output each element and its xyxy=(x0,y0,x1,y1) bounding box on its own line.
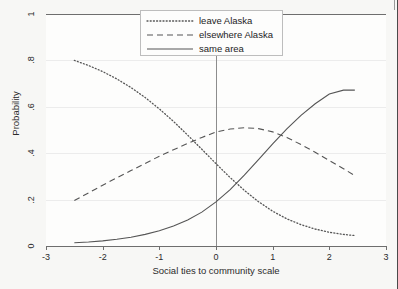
x-tick-mark xyxy=(329,246,330,250)
legend-label: leave Alaska xyxy=(199,15,252,26)
x-tick-mark xyxy=(159,246,160,250)
y-tick-label: 1 xyxy=(26,3,36,25)
chart-figure: 0.2.4.6.81 -3-2-10123 Probability Social… xyxy=(0,0,398,289)
series-line xyxy=(74,128,355,201)
x-tick-mark xyxy=(103,246,104,250)
legend-item: same area xyxy=(141,42,282,55)
legend-label: same area xyxy=(199,43,244,54)
x-tick-label: 3 xyxy=(374,252,398,263)
series-line xyxy=(74,90,355,243)
x-tick-mark xyxy=(46,246,47,250)
y-axis-title: Probability xyxy=(10,71,21,157)
x-tick-label: -1 xyxy=(147,252,171,263)
x-tick-label: 1 xyxy=(261,252,285,263)
x-tick-mark xyxy=(273,246,274,250)
right-edge-tick xyxy=(394,0,395,10)
legend-item: elsewhere Alaska xyxy=(141,28,282,41)
legend-label: elsewhere Alaska xyxy=(199,29,273,40)
x-tick-label: 2 xyxy=(317,252,341,263)
series-line xyxy=(74,60,355,235)
legend-item: leave Alaska xyxy=(141,14,282,27)
x-tick-mark xyxy=(386,246,387,250)
x-tick-mark xyxy=(216,246,217,250)
x-tick-label: -2 xyxy=(91,252,115,263)
y-tick-label: .2 xyxy=(26,189,36,211)
y-tick-label: .8 xyxy=(26,49,36,71)
legend-key-dotted-icon xyxy=(146,15,194,27)
y-tick-label: .4 xyxy=(26,142,36,164)
legend: leave Alaskaelsewhere Alaskasame area xyxy=(140,10,283,56)
y-tick-label: .6 xyxy=(26,96,36,118)
x-tick-label: -3 xyxy=(34,252,58,263)
legend-key-dashed-icon xyxy=(146,29,194,41)
x-axis-title: Social ties to community scale xyxy=(46,265,386,276)
x-tick-label: 0 xyxy=(204,252,228,263)
legend-key-solid-icon xyxy=(146,43,194,55)
